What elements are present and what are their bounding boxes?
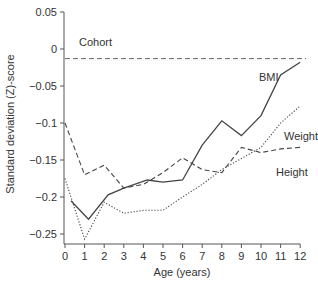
x-tick-label: 3 [121, 250, 127, 262]
x-tick-label: 12 [294, 250, 306, 262]
x-tick-label: 8 [219, 250, 225, 262]
x-axis: 0123456789101112 [62, 244, 306, 262]
x-axis-label: Age (years) [154, 266, 211, 278]
y-axis: 0.050−0.05−0.1−0.15−0.2−0.25 [29, 6, 64, 244]
y-axis-label: Standard deviation (Z)-score [4, 54, 16, 193]
x-tick-label: 5 [160, 250, 166, 262]
series-bmi [71, 62, 300, 219]
y-tick-label: −0.15 [29, 154, 57, 166]
x-tick-label: 6 [180, 250, 186, 262]
y-tick-label: 0 [51, 43, 57, 55]
label-weight: Weight [284, 130, 318, 142]
x-tick-label: 4 [140, 250, 146, 262]
y-tick-label: 0.05 [36, 6, 57, 18]
x-tick-label: 1 [82, 250, 88, 262]
y-tick-label: −0.05 [29, 80, 57, 92]
x-tick-label: 0 [62, 250, 68, 262]
y-tick-label: −0.2 [35, 191, 57, 203]
line-chart: 0.050−0.05−0.1−0.15−0.2−0.25 01234567891… [0, 0, 318, 284]
label-height: Height [276, 166, 308, 178]
label-cohort: Cohort [79, 36, 112, 48]
x-tick-label: 9 [238, 250, 244, 262]
series-weight [65, 106, 300, 239]
series-height [65, 123, 300, 188]
series-lines [65, 59, 306, 240]
y-tick-label: −0.1 [35, 117, 57, 129]
x-tick-label: 11 [275, 250, 286, 262]
x-tick-label: 7 [199, 250, 205, 262]
x-tick-label: 2 [101, 250, 107, 262]
y-tick-label: −0.25 [29, 228, 57, 240]
x-tick-label: 10 [255, 250, 267, 262]
label-bmi: BMI [259, 71, 279, 83]
